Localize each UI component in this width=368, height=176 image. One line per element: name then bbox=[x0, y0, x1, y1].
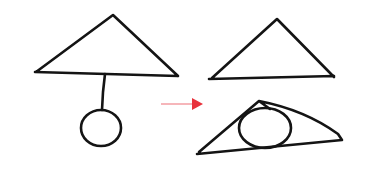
plain-triangle bbox=[209, 19, 334, 79]
diagram-canvas bbox=[0, 0, 368, 176]
after-figure bbox=[197, 19, 342, 154]
inscribed-ellipse bbox=[239, 108, 291, 148]
hanging-triangle bbox=[35, 15, 178, 76]
arrow-head-icon bbox=[192, 98, 203, 110]
transform-arrow bbox=[161, 98, 203, 110]
hanging-circle bbox=[81, 110, 121, 146]
before-figure bbox=[35, 15, 178, 146]
hanging-stick bbox=[102, 74, 105, 110]
